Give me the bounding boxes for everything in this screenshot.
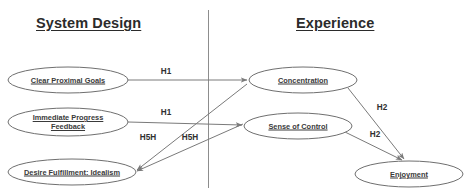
edge-desire-to-concentration xyxy=(137,84,247,170)
node-enjoyment[interactable] xyxy=(355,161,463,187)
node-concentration[interactable] xyxy=(249,67,357,93)
node-immediate-progress-feedback[interactable] xyxy=(8,108,128,136)
path-label-control-to-enjoyment: H2 xyxy=(370,130,380,139)
column-header-system-design: System Design xyxy=(36,15,141,31)
path-label-concentration-to-enjoyment: H2 xyxy=(377,103,387,112)
path-label-feedback-to-control: H1 xyxy=(161,108,171,117)
path-label-desire-to-concentration: H5H xyxy=(140,133,156,142)
path-label-desire-to-control: H5H xyxy=(182,133,198,142)
node-sense-of-control[interactable] xyxy=(244,113,352,139)
edge-feedback-to-control xyxy=(128,122,242,125)
node-clear-proximal-goals[interactable] xyxy=(8,67,128,93)
research-model-diagram: System Design Experience Clear Proximal … xyxy=(0,0,467,195)
edge-desire-to-control xyxy=(137,124,243,171)
edge-concentration-to-enjoyment xyxy=(348,88,404,159)
path-label-goals-to-concentration: H1 xyxy=(161,67,171,76)
column-header-experience: Experience xyxy=(296,15,374,31)
node-desire-fulfillment-idealism[interactable] xyxy=(8,159,136,185)
